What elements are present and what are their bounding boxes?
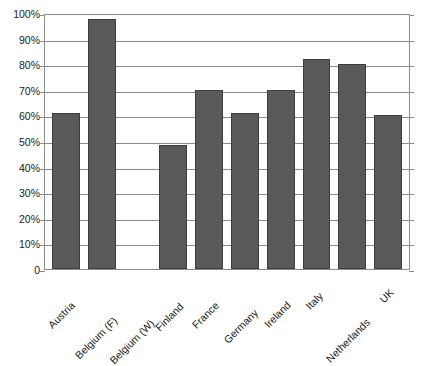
y-axis-tick-label: 50% xyxy=(0,136,40,148)
x-axis-labels: AustriaBelgium (F)Belgium (W)FinlandFran… xyxy=(44,272,410,340)
x-axis-tick-label-text: Finland xyxy=(153,300,186,333)
bar-series xyxy=(45,15,409,269)
y-axis-tick-label: 60% xyxy=(0,110,40,122)
x-axis-tick-label-text: Italy xyxy=(303,290,325,312)
y-axis-tick-label: 10% xyxy=(0,238,40,250)
bar-slot xyxy=(334,15,370,269)
bar xyxy=(374,115,402,269)
x-axis-label-slot: Italy xyxy=(299,272,335,340)
bar-slot xyxy=(370,15,406,269)
x-axis-label-slot: Germany xyxy=(227,272,263,340)
x-axis-label-slot: Austria xyxy=(47,272,83,340)
x-axis-tick-label-text: France xyxy=(189,299,221,331)
bar-slot xyxy=(48,15,84,269)
bar xyxy=(231,113,259,269)
y-axis-tick xyxy=(409,66,414,67)
y-axis-tick-label: 70% xyxy=(0,85,40,97)
x-axis-label-slot: Netherlands xyxy=(335,272,371,340)
x-axis-label-slot: France xyxy=(191,272,227,340)
bar-slot xyxy=(227,15,263,269)
y-axis-labels: 010%20%30%40%50%60%70%80%90%100% xyxy=(0,14,40,270)
y-axis-tick xyxy=(409,92,414,93)
bar-slot xyxy=(84,15,120,269)
bar-slot xyxy=(299,15,335,269)
bar-slot xyxy=(120,15,156,269)
y-axis-tick-label: 40% xyxy=(0,162,40,174)
y-axis-tick-label: 100% xyxy=(0,8,40,20)
y-axis-tick xyxy=(409,143,414,144)
y-axis-tick xyxy=(409,220,414,221)
bar xyxy=(88,19,116,269)
bar xyxy=(159,145,187,269)
y-axis-tick xyxy=(409,41,414,42)
y-axis-tick xyxy=(409,245,414,246)
bar-slot xyxy=(155,15,191,269)
plot-area xyxy=(44,14,410,270)
x-axis-label-slot: Belgium (F) xyxy=(83,272,119,340)
bar xyxy=(52,113,80,269)
x-axis-label-slot: Ireland xyxy=(263,272,299,340)
x-axis-tick-label: UK xyxy=(387,276,406,295)
y-axis-tick-label: 30% xyxy=(0,187,40,199)
x-axis-tick-label-text: Austria xyxy=(45,299,77,331)
bar xyxy=(267,90,295,269)
y-axis-tick-label: 20% xyxy=(0,213,40,225)
y-axis-tick-label: 80% xyxy=(0,59,40,71)
y-axis-tick xyxy=(409,194,414,195)
y-axis-tick-label: 0 xyxy=(0,264,40,276)
bar xyxy=(195,90,223,269)
y-axis-tick xyxy=(409,15,414,16)
x-axis-label-slot: Belgium (W) xyxy=(119,272,155,340)
x-axis-tick-label-text: UK xyxy=(377,286,396,305)
x-axis-tick-label-text: Germany xyxy=(221,307,260,346)
x-axis-label-slot: UK xyxy=(371,272,407,340)
bar-slot xyxy=(191,15,227,269)
x-axis-tick-label-text: Ireland xyxy=(262,299,293,330)
y-axis-tick xyxy=(409,117,414,118)
y-axis-tick xyxy=(409,169,414,170)
y-axis-tick-label: 90% xyxy=(0,34,40,46)
bar xyxy=(338,64,366,269)
x-axis-label-slot: Finland xyxy=(155,272,191,340)
bar-slot xyxy=(263,15,299,269)
bar xyxy=(303,59,331,269)
